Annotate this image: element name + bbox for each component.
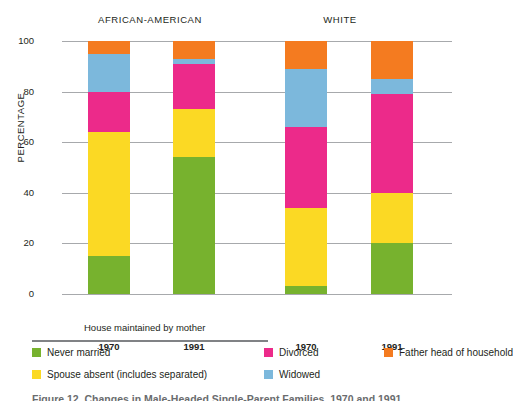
legend-item-widowed[interactable]: Widowed: [264, 369, 320, 380]
legend-swatch-father-head-of-household: [384, 348, 393, 357]
bar-white-1991[interactable]: [371, 41, 413, 294]
bar-segment-spouse-absent-includes-separated: [88, 132, 130, 256]
legend-label-father-head-of-household: Father head of household: [399, 347, 513, 358]
legend-swatch-divorced: [264, 348, 273, 357]
y-axis-tick-label: 20: [6, 238, 34, 248]
bar-segment-father-head-of-household: [88, 41, 130, 54]
bar-segment-never-married: [285, 286, 327, 294]
legend-item-father-head-of-household[interactable]: Father head of household: [384, 347, 513, 358]
legend-label-spouse-absent: Spouse absent (includes separated): [47, 369, 207, 380]
chart-legend: Never married Divorced Father head of ho…: [32, 347, 484, 391]
gridline: [62, 294, 452, 295]
y-axis-tick-label: 80: [6, 87, 34, 97]
bar-segment-divorced: [371, 94, 413, 193]
legend-item-spouse-absent[interactable]: Spouse absent (includes separated): [32, 369, 207, 380]
bar-segment-father-head-of-household: [173, 41, 215, 59]
legend-swatch-never-married: [32, 348, 41, 357]
y-axis-tick-label: 40: [6, 188, 34, 198]
bar-segment-widowed: [285, 69, 327, 127]
bar-segment-father-head-of-household: [371, 41, 413, 79]
bar-segment-never-married: [173, 157, 215, 294]
legend-item-divorced[interactable]: Divorced: [264, 347, 318, 358]
y-axis-tick-label: 0: [6, 289, 34, 299]
bar-african-american-1970[interactable]: [88, 41, 130, 294]
y-axis-tick-label: 100: [6, 36, 34, 46]
group-label-white: WHITE: [252, 14, 428, 25]
legend-label-never-married: Never married: [47, 347, 110, 358]
legend-label-divorced: Divorced: [279, 347, 318, 358]
figure-caption: Figure 12. Changes in Male-Headed Single…: [32, 393, 472, 401]
bar-segment-widowed: [88, 54, 130, 92]
legend-swatch-spouse-absent: [32, 370, 41, 379]
bar-segment-divorced: [88, 92, 130, 132]
bar-segment-divorced: [285, 127, 327, 208]
bar-segment-widowed: [371, 79, 413, 94]
bar-segment-never-married: [88, 256, 130, 294]
bar-segment-never-married: [371, 243, 413, 294]
bar-segment-spouse-absent-includes-separated: [285, 208, 327, 286]
y-axis-tick-label: 60: [6, 137, 34, 147]
legend-swatch-widowed: [264, 370, 273, 379]
legend-label-widowed: Widowed: [279, 369, 320, 380]
bar-segment-divorced: [173, 64, 215, 110]
bar-segment-spouse-absent-includes-separated: [173, 109, 215, 157]
legend-divider: [32, 340, 268, 342]
bar-segment-widowed: [173, 59, 215, 64]
bar-segment-spouse-absent-includes-separated: [371, 193, 413, 244]
plot-area: 1008060402001970199119701991: [62, 41, 452, 294]
bar-segment-father-head-of-household: [285, 41, 327, 69]
legend-row-1: Never married Divorced Father head of ho…: [32, 347, 484, 369]
bar-white-1970[interactable]: [285, 41, 327, 294]
bar-african-american-1991[interactable]: [173, 41, 215, 294]
legend-row-2: Spouse absent (includes separated) Widow…: [32, 369, 484, 391]
group-label-african-american: AFRICAN-AMERICAN: [62, 14, 238, 25]
house-maintained-label: House maintained by mother: [84, 322, 205, 333]
legend-item-never-married[interactable]: Never married: [32, 347, 110, 358]
